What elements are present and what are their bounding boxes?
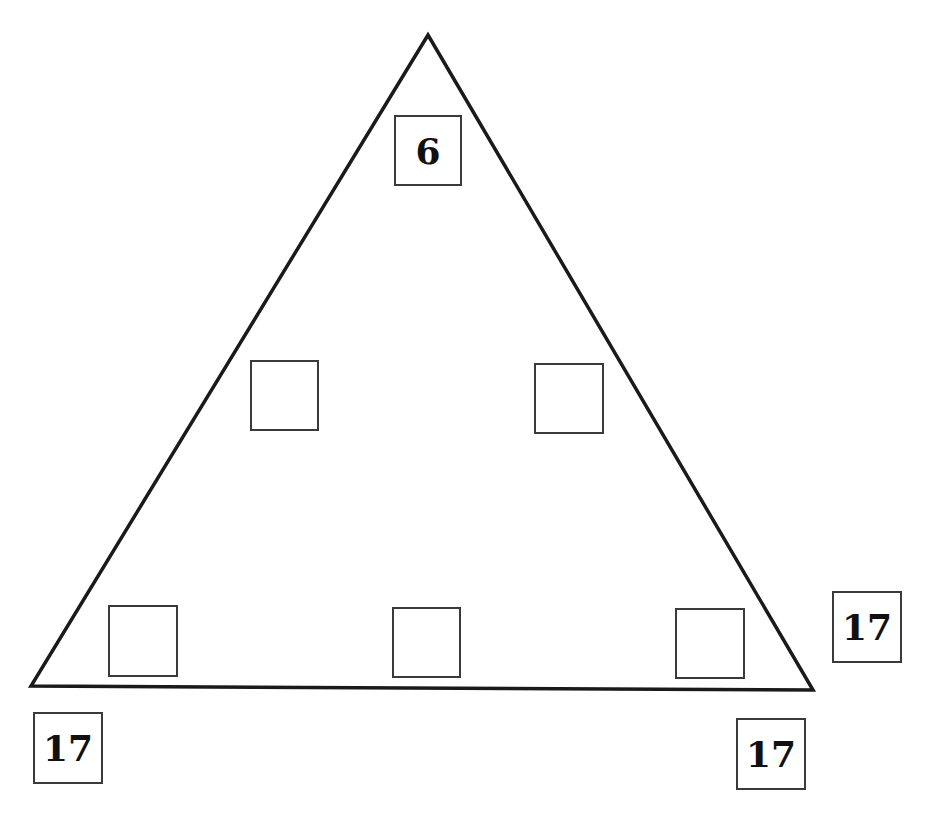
bottom-left-inner-box[interactable] — [108, 605, 178, 677]
left-side-sum-value: 17 — [43, 727, 93, 769]
left-side-sum-box: 17 — [33, 712, 103, 784]
magic-triangle-puzzle: 6 17 17 17 — [0, 0, 936, 829]
apex-value: 6 — [415, 130, 440, 172]
right-side-sum-box: 17 — [832, 591, 902, 663]
bottom-right-inner-box[interactable] — [675, 608, 745, 679]
left-mid-box[interactable] — [250, 360, 319, 431]
bottom-side-sum-box: 17 — [736, 718, 806, 790]
bottom-side-sum-value: 17 — [746, 733, 796, 775]
triangle-outline — [0, 0, 936, 829]
bottom-mid-box[interactable] — [392, 607, 461, 678]
apex-box: 6 — [394, 115, 462, 186]
right-mid-box[interactable] — [534, 363, 604, 434]
right-side-sum-value: 17 — [842, 606, 892, 648]
